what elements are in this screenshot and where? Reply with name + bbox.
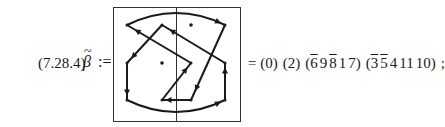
equals-sign: = (248, 55, 256, 71)
cycle-entry: 5 (380, 55, 388, 72)
cycle-1: (2) (283, 55, 301, 71)
equation-rhs: = (0)(2)(69817)(3541110); (248, 55, 445, 72)
arrowhead-icon (222, 67, 228, 73)
arrowhead-icon (165, 97, 171, 103)
cycle-3: (3541110) (366, 55, 436, 71)
diagram-node-b4 (224, 62, 227, 65)
cycle-entry: 4 (390, 55, 398, 72)
cycle-entry: 1 (339, 55, 347, 72)
cycle-entry: 8 (329, 55, 337, 72)
cycle-0: (0) (260, 55, 278, 71)
diagram-node-b1 (126, 62, 129, 65)
cycle-entry: 2 (288, 55, 296, 72)
cycle-entry: 3 (371, 55, 379, 72)
diagram-node-c3 (190, 99, 193, 102)
cycle-entry: 9 (320, 55, 328, 72)
diagram-node-a4 (224, 24, 227, 27)
diagram-node-c2 (161, 99, 164, 102)
diagram-node-a3 (189, 23, 193, 27)
diagram-node-b3 (190, 62, 193, 65)
cycle-entry: 10 (416, 55, 431, 72)
diagram-node-c1 (126, 99, 129, 102)
diagram-node-a1 (126, 24, 129, 27)
arrowhead-icon (124, 90, 130, 96)
cycle-notation: (0)(2)(69817)(3541110) (260, 55, 440, 71)
diagram-node-a2 (161, 24, 164, 27)
diagram-node-c4 (224, 99, 227, 102)
terminator: ; (441, 55, 445, 71)
cycle-2: (69817) (305, 55, 361, 71)
cycle-entry: 7 (348, 55, 356, 72)
cycle-entry: 11 (399, 55, 413, 72)
diagram-node-b2 (160, 61, 164, 65)
cycle-entry: 0 (265, 55, 273, 72)
cycle-entry: 6 (310, 55, 318, 72)
